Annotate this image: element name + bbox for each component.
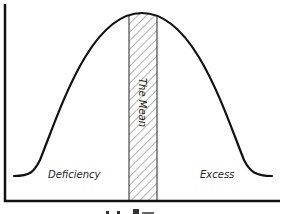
deficiency-label: Deficiency: [48, 169, 102, 180]
bell-curve-diagram: The Mean Deficiency Excess: [0, 0, 283, 214]
excess-label: Excess: [200, 169, 234, 180]
x-axis-label-clipped: [106, 209, 154, 214]
mean-label: The Mean: [137, 78, 148, 127]
